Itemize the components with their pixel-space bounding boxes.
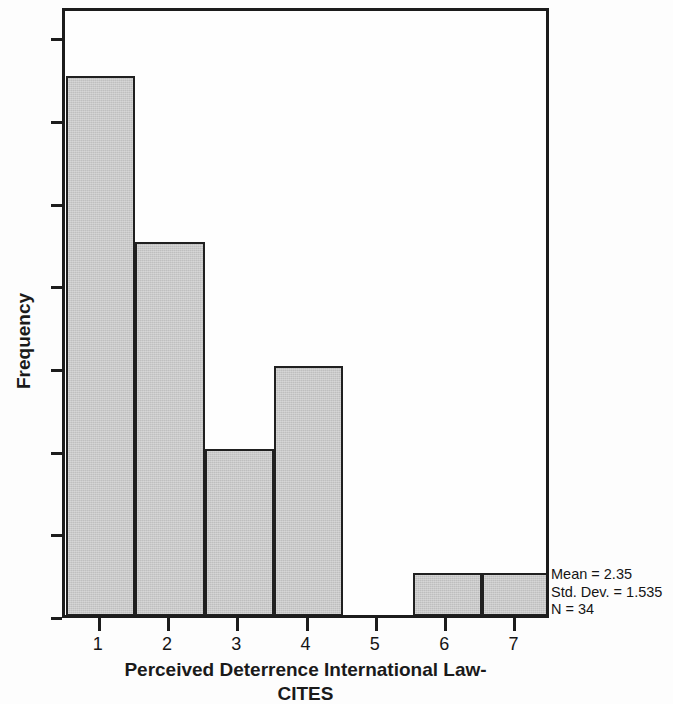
x-axis-title-line-2: CITES <box>62 682 549 704</box>
histogram-bar <box>66 76 135 615</box>
y-axis-tick-mark <box>51 286 62 289</box>
x-axis-tick-label: 7 <box>493 634 533 655</box>
bar-fill-texture <box>484 575 546 614</box>
bar-fill-texture <box>68 78 133 614</box>
std-dev-label: Std. Dev. = 1.535 <box>551 584 662 602</box>
plot-area <box>65 11 546 615</box>
x-axis-tick-label: 6 <box>424 634 464 655</box>
bar-fill-texture <box>276 368 341 614</box>
plot-frame <box>62 8 549 618</box>
bar-fill-texture <box>207 451 272 614</box>
y-axis-tick-mark <box>51 534 62 537</box>
x-axis-title: Perceived Deterrence International Law- … <box>62 658 549 704</box>
x-axis-tick-mark <box>375 618 378 631</box>
histogram-bar <box>413 573 482 615</box>
y-axis-tick-mark <box>51 121 62 124</box>
mean-label: Mean = 2.35 <box>551 566 662 584</box>
x-axis-tick-mark <box>236 618 239 631</box>
y-axis-tick-mark <box>51 369 62 372</box>
x-axis-tick-mark <box>167 618 170 631</box>
x-axis-title-line-1: Perceived Deterrence International Law- <box>124 659 486 680</box>
y-axis-tick-mark <box>51 617 62 620</box>
histogram-bar <box>135 242 204 615</box>
x-axis-tick-mark <box>306 618 309 631</box>
x-axis-tick-label: 2 <box>147 634 187 655</box>
y-axis-tick-mark <box>51 38 62 41</box>
bar-fill-texture <box>137 244 202 614</box>
y-axis-tick-mark <box>51 452 62 455</box>
x-axis-tick-label: 1 <box>78 634 118 655</box>
x-axis-tick-label: 3 <box>216 634 256 655</box>
statistics-annotation: Mean = 2.35 Std. Dev. = 1.535 N = 34 <box>551 566 662 619</box>
x-axis-tick-mark <box>513 618 516 631</box>
y-axis-title: Frequency <box>13 271 35 411</box>
histogram-figure: Frequency 02468101214 1234567 Perceived … <box>0 0 673 704</box>
sample-size-label: N = 34 <box>551 601 662 619</box>
histogram-bar <box>205 449 274 615</box>
histogram-bar <box>274 366 343 615</box>
x-axis-tick-label: 4 <box>286 634 326 655</box>
x-axis-tick-label: 5 <box>355 634 395 655</box>
bar-fill-texture <box>415 575 480 614</box>
y-axis-tick-mark <box>51 204 62 207</box>
x-axis-tick-mark <box>98 618 101 631</box>
histogram-bar <box>482 573 546 615</box>
x-axis-tick-mark <box>444 618 447 631</box>
